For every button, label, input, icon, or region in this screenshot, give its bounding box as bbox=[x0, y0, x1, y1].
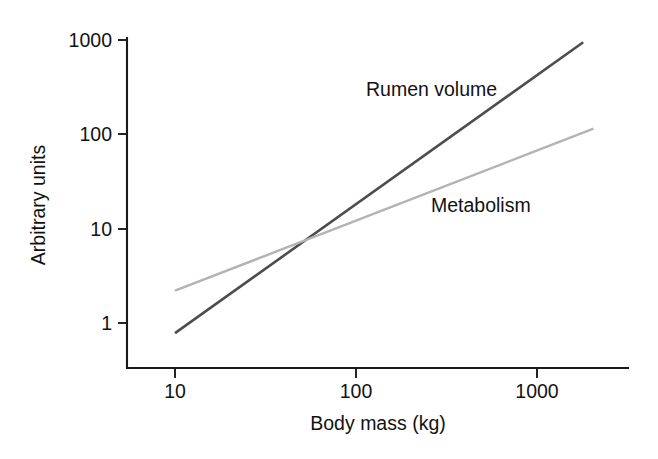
x-tick-label-10: 10 bbox=[164, 380, 186, 402]
series-label-rumen-volume: Rumen volume bbox=[366, 78, 497, 100]
y-tick-label-1: 1 bbox=[101, 312, 112, 334]
x-tick-label-100: 100 bbox=[340, 380, 373, 402]
x-tick-marks bbox=[175, 368, 537, 378]
series-label-metabolism: Metabolism bbox=[431, 194, 531, 216]
x-tick-label-1000: 1000 bbox=[515, 380, 559, 402]
y-axis-title: Arbitrary units bbox=[27, 145, 49, 266]
y-tick-label-1000: 1000 bbox=[69, 29, 113, 51]
log-log-chart: 1000 100 10 1 10 100 1000 Body mass (kg)… bbox=[0, 0, 658, 459]
figure-canvas: 1000 100 10 1 10 100 1000 Body mass (kg)… bbox=[0, 0, 658, 459]
x-axis-title: Body mass (kg) bbox=[310, 412, 445, 434]
y-tick-label-10: 10 bbox=[90, 218, 112, 240]
y-tick-label-100: 100 bbox=[79, 123, 112, 145]
y-tick-marks bbox=[118, 40, 127, 323]
